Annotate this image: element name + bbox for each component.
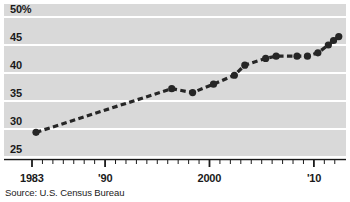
x-axis-ticks [4,159,346,173]
x-tick-label: 2000 [197,172,221,184]
data-point-marker [262,55,269,62]
data-point-marker [189,89,196,96]
source-note: Source: U.S. Census Bureau [5,187,124,198]
chart-figure: 50%4540353025 1983'902000'10 Source: U.S… [0,0,350,202]
line-series [4,4,346,159]
data-point-marker [304,53,311,60]
data-point-marker [273,53,280,60]
series-markers-group [32,33,342,136]
plot-area: 50%4540353025 [4,4,346,159]
data-point-marker [335,33,342,40]
x-tick-label: '10 [307,172,321,184]
x-tick-label: 1983 [20,172,44,184]
x-tick-label: '90 [98,172,112,184]
series-line-path [36,37,339,133]
data-point-marker [231,72,238,79]
data-point-marker [32,129,39,136]
data-point-marker [293,53,300,60]
x-axis-area [4,159,346,173]
x-tickmarks-group [32,160,335,167]
data-point-marker [168,85,175,92]
data-point-marker [210,81,217,88]
data-point-marker [314,49,321,56]
data-point-marker [241,62,248,69]
